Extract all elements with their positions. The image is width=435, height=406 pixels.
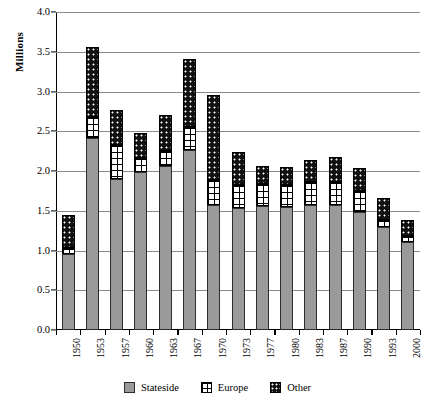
stacked-bar-chart: Millions 0.00.51.01.52.02.53.03.54.0 195…: [0, 0, 435, 406]
bar-segment-europe: [86, 117, 99, 138]
bar-segment-europe: [377, 220, 390, 228]
bar-segment-other: [329, 157, 342, 182]
bar-segment-other: [207, 95, 220, 179]
bar-segment-other: [401, 220, 414, 237]
x-tick-mark: [153, 330, 154, 335]
x-tick-label: 1960: [145, 338, 155, 358]
bar-segment-stateside: [401, 242, 414, 330]
bar-segment-europe: [256, 184, 269, 206]
bar-segment-other: [86, 47, 99, 117]
x-tick-label: 1983: [315, 338, 325, 358]
bar-segment-europe: [353, 191, 366, 212]
x-tick-mark: [323, 330, 324, 335]
x-tick-mark: [177, 330, 178, 335]
other-swatch-icon: [270, 382, 281, 393]
x-tick-mark: [299, 330, 300, 335]
bar-segment-europe: [207, 180, 220, 205]
bar-segment-europe: [304, 182, 317, 205]
x-tick-label: 2000: [412, 338, 422, 358]
bar-segment-stateside: [232, 208, 245, 330]
bar-segment-stateside: [256, 206, 269, 330]
x-tick-label: 1957: [121, 338, 131, 358]
bar-column: [353, 168, 366, 330]
y-tick-label: 1.0: [37, 245, 50, 256]
x-tick-label: 1980: [291, 338, 301, 358]
legend-label: Stateside: [141, 382, 179, 393]
x-tick-mark: [202, 330, 203, 335]
bar-segment-other: [159, 115, 172, 152]
x-tick-label: 1967: [193, 338, 203, 358]
bar-segment-europe: [280, 185, 293, 207]
bar-segment-europe: [134, 158, 147, 172]
bar-segment-other: [183, 59, 196, 127]
x-tick-mark: [56, 330, 57, 335]
y-tick-label: 3.0: [37, 86, 50, 97]
stateside-swatch-icon: [124, 382, 135, 393]
x-tick-label: 1950: [72, 338, 82, 358]
y-tick-label: 3.5: [37, 47, 50, 58]
bar-column: [256, 166, 269, 330]
x-tick-mark: [396, 330, 397, 335]
bar-segment-other: [62, 215, 75, 248]
bar-column: [86, 47, 99, 330]
bar-column: [207, 95, 220, 330]
y-tick-label: 0.5: [37, 285, 50, 296]
chart-legend: StatesideEuropeOther: [0, 382, 435, 393]
bar-segment-europe: [159, 151, 172, 166]
x-tick-mark: [347, 330, 348, 335]
bar-segment-stateside: [353, 212, 366, 330]
bar-column: [159, 115, 172, 330]
x-tick-label: 1987: [339, 338, 349, 358]
legend-label: Other: [287, 382, 311, 393]
bar-segment-europe: [232, 185, 245, 209]
bar-segment-other: [110, 110, 123, 145]
bar-segment-stateside: [304, 205, 317, 330]
x-axis-labels: 1950195319571960196319671970197319771980…: [56, 338, 420, 380]
bar-segment-other: [280, 167, 293, 184]
bar-column: [183, 59, 196, 330]
plot-area: 0.00.51.01.52.02.53.03.54.0: [56, 12, 420, 330]
bar-segment-europe: [329, 182, 342, 205]
bar-segment-other: [256, 166, 269, 183]
x-tick-label: 1990: [363, 338, 373, 358]
bar-segment-europe: [110, 145, 123, 179]
x-tick-mark: [250, 330, 251, 335]
legend-item: Stateside: [124, 382, 179, 393]
bar-segment-other: [134, 133, 147, 158]
europe-swatch-icon: [201, 382, 212, 393]
bar-column: [232, 152, 245, 330]
x-tick-label: 1977: [266, 338, 276, 358]
x-tick-mark: [420, 330, 421, 335]
bar-segment-other: [304, 160, 317, 182]
y-tick-label: 4.0: [37, 7, 50, 18]
bar-column: [304, 160, 317, 330]
x-tick-label: 1973: [242, 338, 252, 358]
bar-segment-stateside: [134, 172, 147, 330]
x-tick-label: 1953: [96, 338, 106, 358]
bar-column: [62, 215, 75, 330]
x-tick-mark: [274, 330, 275, 335]
bar-series-layer: [56, 12, 420, 330]
legend-item: Other: [270, 382, 311, 393]
x-tick-label: 1993: [388, 338, 398, 358]
bar-column: [110, 110, 123, 330]
legend-label: Europe: [218, 382, 248, 393]
legend-item: Europe: [201, 382, 248, 393]
x-tick-mark: [105, 330, 106, 335]
x-tick-mark: [80, 330, 81, 335]
bar-segment-stateside: [86, 138, 99, 330]
bar-segment-stateside: [110, 179, 123, 330]
y-axis-title: Millions: [13, 7, 25, 97]
bar-segment-stateside: [329, 205, 342, 330]
bar-segment-europe: [183, 127, 196, 150]
bar-segment-stateside: [159, 166, 172, 330]
bar-column: [329, 157, 342, 330]
bar-segment-stateside: [280, 207, 293, 330]
bar-segment-stateside: [62, 254, 75, 330]
x-axis-ticks: [56, 330, 420, 336]
y-tick-label: 2.5: [37, 126, 50, 137]
y-tick-label: 2.0: [37, 166, 50, 177]
bar-column: [280, 167, 293, 330]
bar-segment-stateside: [183, 150, 196, 330]
bar-segment-stateside: [377, 227, 390, 330]
